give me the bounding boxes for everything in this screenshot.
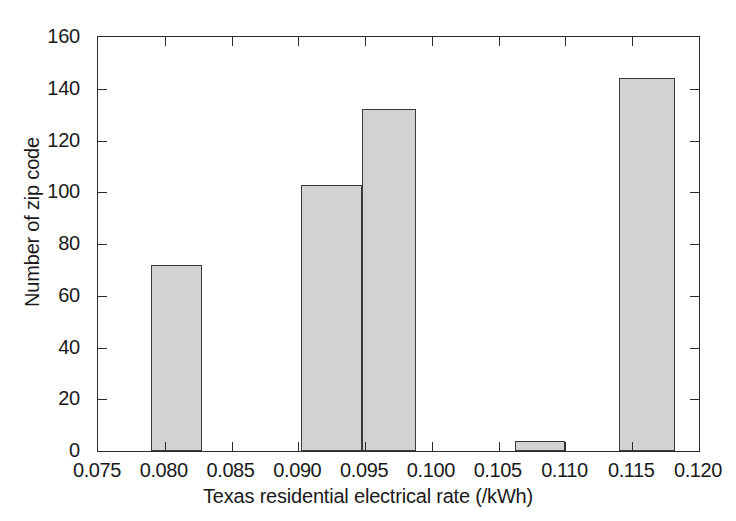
x-axis-tick-top <box>565 37 566 46</box>
y-axis-tick-label: 20 <box>58 388 80 408</box>
x-axis-tick <box>165 442 166 451</box>
y-axis-tick-labels: 020406080100120140160 <box>0 36 88 452</box>
y-axis-tick <box>98 348 107 349</box>
y-axis-tick-label: 60 <box>58 285 80 305</box>
x-axis-tick <box>365 442 366 451</box>
x-axis-tick-label: 0.110 <box>541 458 588 482</box>
x-axis-tick-top <box>632 37 633 46</box>
x-axis-tick-label: 0.115 <box>608 458 655 482</box>
x-axis-tick-top <box>298 37 299 46</box>
y-axis-tick-label: 100 <box>47 181 80 201</box>
y-axis-tick-label: 120 <box>47 130 80 150</box>
x-axis-tick <box>232 442 233 451</box>
x-axis-tick <box>432 442 433 451</box>
y-axis-tick <box>98 296 107 297</box>
y-axis-tick-right <box>690 348 699 349</box>
histogram-figure: Number of zip code 020406080100120140160… <box>0 0 736 521</box>
x-axis-tick-top <box>432 37 433 46</box>
histogram-bar <box>301 185 362 452</box>
y-axis-tick-right <box>690 399 699 400</box>
y-axis-tick-label: 40 <box>58 337 80 357</box>
x-axis-tick-label: 0.095 <box>340 458 388 482</box>
histogram-bar <box>362 109 415 451</box>
histogram-bar <box>619 78 675 451</box>
x-axis-tick-label: 0.090 <box>273 458 321 482</box>
y-axis-tick-right <box>690 141 699 142</box>
y-axis-tick-label: 160 <box>47 26 80 46</box>
y-axis-tick-right <box>690 89 699 90</box>
y-axis-tick-right <box>690 296 699 297</box>
plot-area <box>97 36 700 452</box>
x-axis-tick-top <box>365 37 366 46</box>
y-axis-tick <box>98 89 107 90</box>
x-axis-tick-top <box>499 37 500 46</box>
x-axis-tick <box>565 442 566 451</box>
x-axis-tick-label: 0.105 <box>474 458 522 482</box>
x-axis-tick-label: 0.075 <box>73 458 121 482</box>
x-axis-tick-top <box>165 37 166 46</box>
y-axis-tick-label: 140 <box>47 78 80 98</box>
y-axis-tick-right <box>690 244 699 245</box>
y-axis-tick-label: 80 <box>58 233 80 253</box>
y-axis-tick-right <box>690 192 699 193</box>
x-axis-title: Texas residential electrical rate (/kWh) <box>0 484 736 508</box>
y-axis-tick <box>98 141 107 142</box>
y-axis-tick <box>98 244 107 245</box>
x-axis-tick <box>499 442 500 451</box>
histogram-bar <box>515 441 566 451</box>
x-axis-tick-label: 0.080 <box>140 458 188 482</box>
x-axis-tick <box>298 442 299 451</box>
y-axis-tick-label: 0 <box>69 440 80 460</box>
x-axis-tick <box>632 442 633 451</box>
x-axis-tick-labels: 0.0750.0800.0850.0900.0950.1000.1050.110… <box>0 458 736 486</box>
x-axis-tick-label: 0.120 <box>674 458 722 482</box>
x-axis-tick-label: 0.085 <box>207 458 255 482</box>
x-axis-tick-top <box>232 37 233 46</box>
y-axis-tick <box>98 399 107 400</box>
y-axis-tick <box>98 192 107 193</box>
histogram-bar <box>151 265 202 451</box>
x-axis-tick-label: 0.100 <box>407 458 455 482</box>
